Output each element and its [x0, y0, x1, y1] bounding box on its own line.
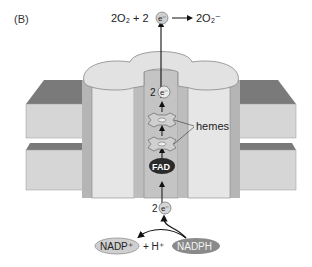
heme-icon — [148, 113, 176, 127]
electron-label: e⁻ — [158, 14, 166, 23]
nadph-oxidase-diagram: 2O₂ + 2 e⁻ 2O₂⁻ 2 e⁻ hemes FAD 2 e⁻ NADP… — [0, 0, 312, 267]
hemes-label: hemes — [196, 120, 230, 132]
electron-bottom-label: e⁻ — [161, 204, 169, 213]
electron-top-label: e⁻ — [160, 88, 168, 97]
plus-h-label: + H⁺ — [143, 241, 164, 252]
eq-rhs: 2O₂⁻ — [196, 12, 221, 24]
nadph-label: NADPH — [177, 241, 212, 252]
eq-lhs: 2O₂ + 2 — [111, 12, 149, 24]
electron-top-coeff: 2 — [150, 87, 156, 98]
nadp-plus-label: NADP⁺ — [100, 241, 133, 252]
fad-label: FAD — [152, 162, 171, 172]
heme-icon — [148, 137, 176, 151]
electron-bottom-coeff: 2 — [152, 203, 158, 214]
